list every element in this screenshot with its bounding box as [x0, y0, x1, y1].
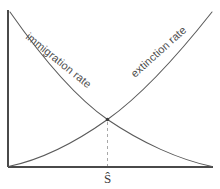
- rate-equilibrium-chart: immigration rate extinction rate Ŝ: [0, 0, 220, 189]
- equilibrium-axis-label: Ŝ: [104, 171, 111, 186]
- immigration-rate-label: immigration rate: [24, 30, 94, 90]
- figure-container: immigration rate extinction rate Ŝ: [0, 0, 220, 189]
- equilibrium-point-marker: [106, 118, 109, 121]
